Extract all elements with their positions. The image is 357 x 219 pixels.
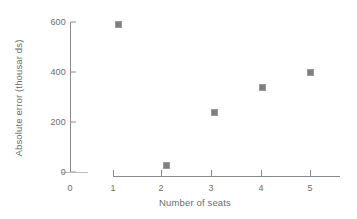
data-point	[115, 21, 122, 28]
data-point	[259, 84, 266, 91]
x-tick-label-2: 2	[151, 183, 171, 193]
x-tick-label-5: 5	[300, 183, 320, 193]
y-tick-label-200: 200	[36, 117, 66, 127]
x-axis-label: Number of seats	[70, 197, 320, 208]
data-point	[307, 69, 314, 76]
x-tick-label-0: 0	[60, 183, 80, 193]
x-tick-label-1: 1	[103, 183, 123, 193]
y-tick-label-400: 400	[36, 67, 66, 77]
data-point	[211, 109, 218, 116]
y-tick-label-0: 0	[36, 167, 66, 177]
x-tick-label-3: 3	[201, 183, 221, 193]
x-tick-label-4: 4	[251, 183, 271, 193]
y-tick-label-600: 600	[36, 17, 66, 27]
scatter-chart-figure: 600 400 200 0 0 1 2 3 4 5 Absolute error…	[0, 0, 357, 219]
data-point	[163, 162, 170, 169]
y-axis-label: Absolute error (thousar ds)	[12, 8, 26, 188]
